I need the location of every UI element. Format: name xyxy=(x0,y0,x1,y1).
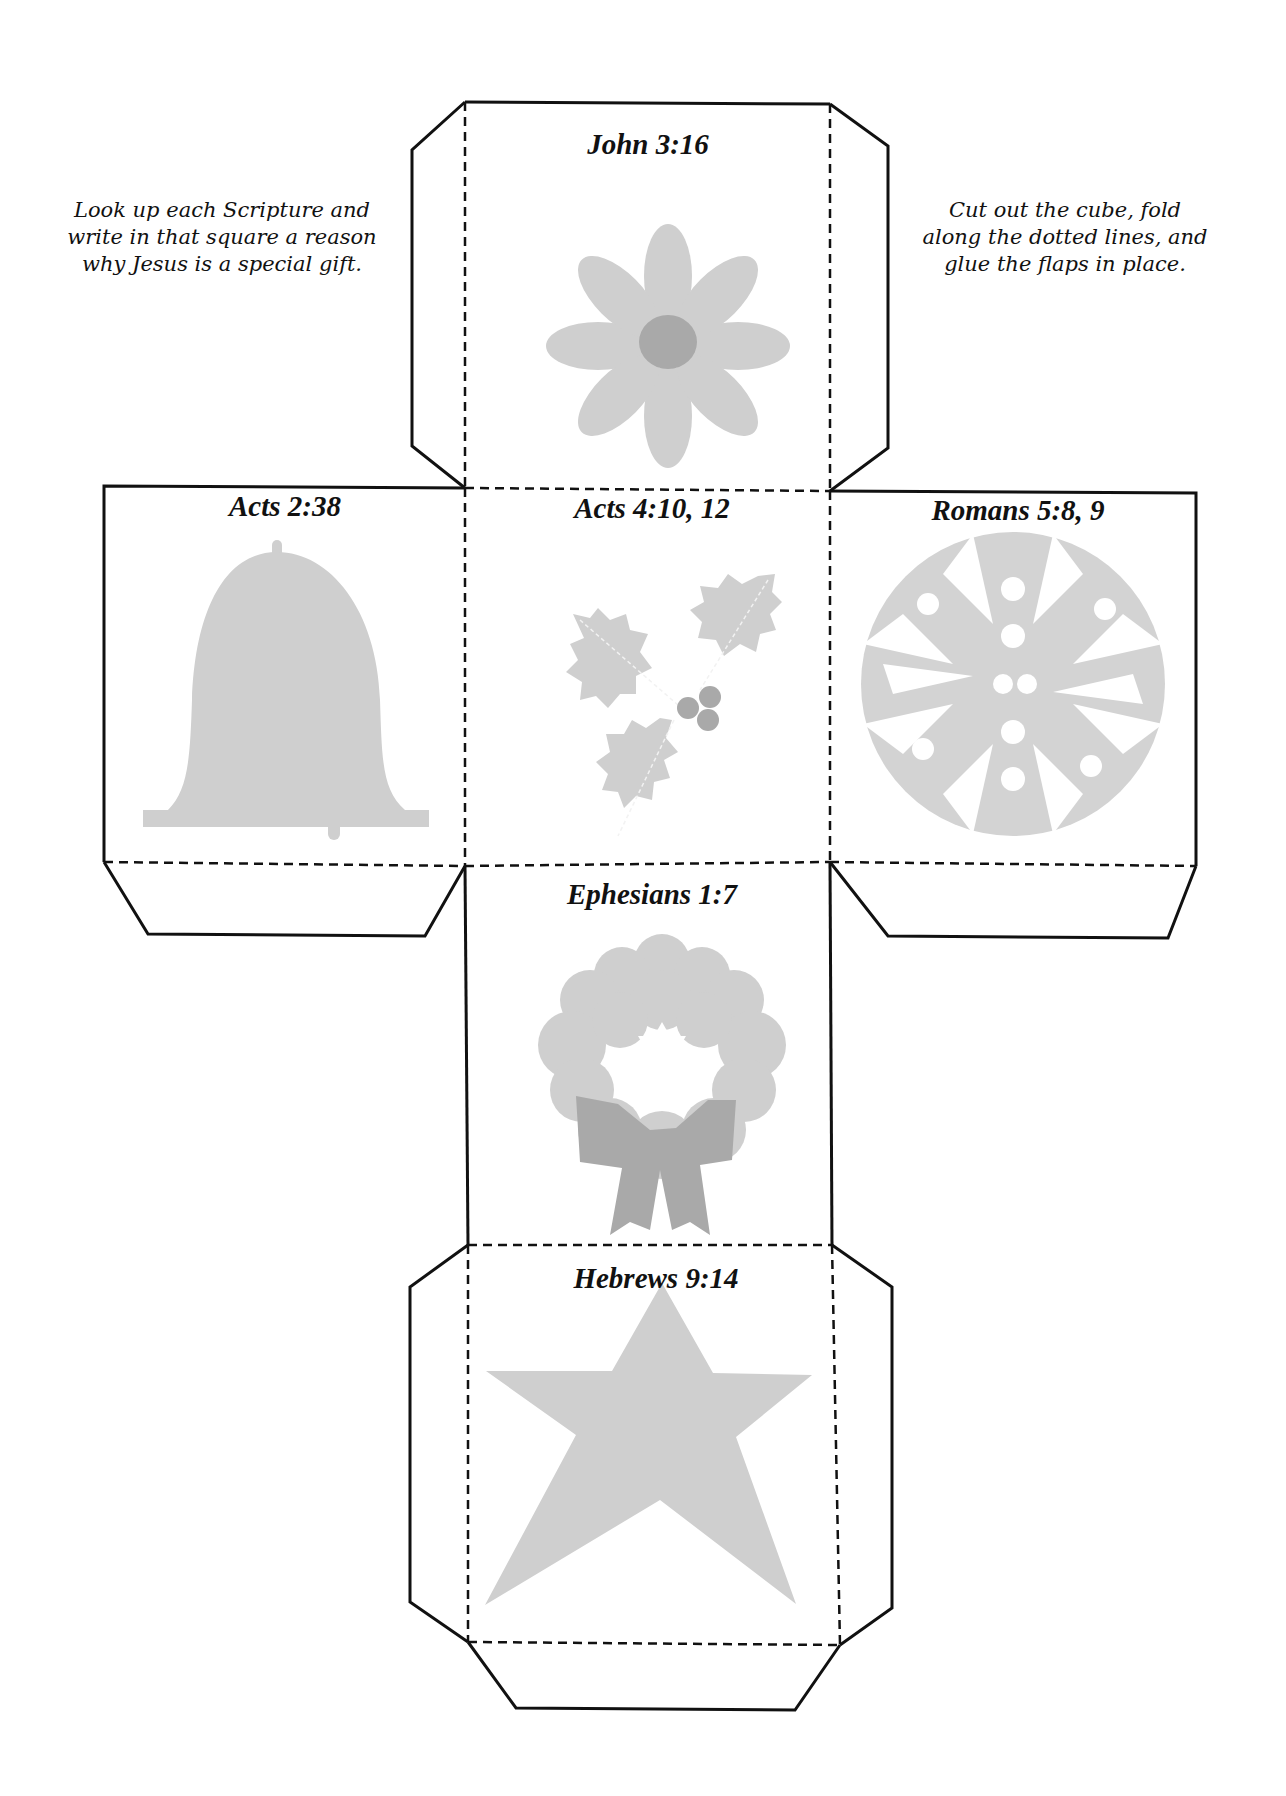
bottom-face-bottom-flap xyxy=(468,1642,840,1710)
face-title-left: Acts 2:38 xyxy=(229,490,341,523)
face-title-lower: Ephesians 1:7 xyxy=(567,878,737,911)
instructions-right: Cut out the cube, fold along the dotted … xyxy=(920,197,1210,278)
snowflake-icon xyxy=(861,532,1165,836)
flower-icon xyxy=(546,224,790,468)
face-title-center: Acts 4:10, 12 xyxy=(574,492,729,525)
bell-icon xyxy=(143,540,429,840)
face-title-right: Romans 5:8, 9 xyxy=(931,494,1104,527)
lower-face-left-edge xyxy=(465,866,468,1245)
bottom-face-right-flap xyxy=(832,1245,892,1645)
lower-face-right-edge xyxy=(830,862,832,1245)
bottom-face-left-flap xyxy=(410,1245,468,1642)
right-face-bottom-flap xyxy=(830,862,1196,938)
top-face-right-flap xyxy=(830,104,888,491)
star-icon xyxy=(485,1283,812,1605)
left-face-bottom-flap xyxy=(104,862,465,936)
top-face-top-edge xyxy=(465,102,830,104)
face-title-top: John 3:16 xyxy=(587,128,709,161)
instructions-left: Look up each Scripture and write in that… xyxy=(62,197,382,278)
holly-icon xyxy=(566,574,782,836)
face-title-bottom: Hebrews 9:14 xyxy=(573,1262,738,1295)
wreath-icon xyxy=(538,934,786,1235)
top-face-left-flap xyxy=(412,102,465,488)
